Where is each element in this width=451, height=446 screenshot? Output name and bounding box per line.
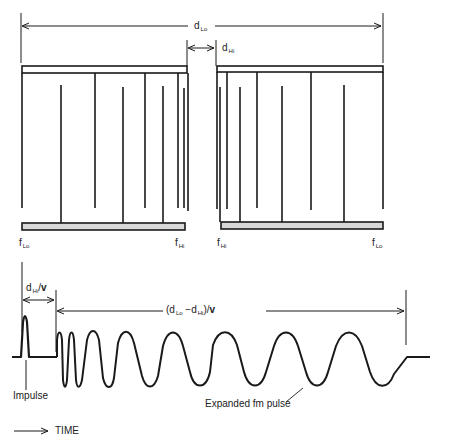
dimension-d-hi bbox=[187, 40, 216, 66]
label-d-hi: dHi bbox=[222, 43, 234, 54]
impulse-waveform bbox=[12, 316, 57, 390]
label-expanded-fm-pulse: Expanded fm pulse bbox=[205, 399, 291, 409]
expanded-fm-pulse-waveform bbox=[57, 331, 430, 402]
label-d-lo: dLo bbox=[194, 21, 207, 32]
label-delay-hi: dHi/v bbox=[26, 283, 47, 294]
diagram-canvas bbox=[0, 0, 451, 446]
label-time: TIME bbox=[55, 426, 79, 436]
label-left-f-hi: fHi bbox=[175, 238, 184, 249]
label-left-f-lo: fLo bbox=[19, 238, 29, 249]
label-right-f-lo: fLo bbox=[372, 238, 382, 249]
right-transducer bbox=[217, 66, 383, 229]
label-impulse: Impulse bbox=[13, 391, 48, 401]
left-transducer bbox=[22, 66, 188, 230]
label-delay-difference: (dLo −dHi)/v bbox=[166, 305, 215, 316]
label-right-f-hi: fHi bbox=[217, 238, 226, 249]
